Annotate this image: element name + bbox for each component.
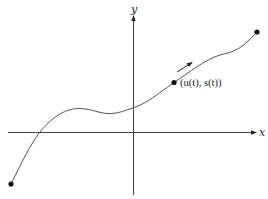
start-point-dot <box>8 181 13 186</box>
diagram-canvas <box>0 0 268 199</box>
marked-point-dot <box>171 80 176 85</box>
direction-arrow-icon <box>177 63 192 73</box>
parametric-curve-diagram: y x (u(t), s(t)) <box>0 0 268 199</box>
x-axis-label: x <box>259 127 265 138</box>
marked-point-label: (u(t), s(t)) <box>180 78 221 89</box>
y-axis-label: y <box>131 4 137 15</box>
end-point-dot <box>254 29 259 34</box>
